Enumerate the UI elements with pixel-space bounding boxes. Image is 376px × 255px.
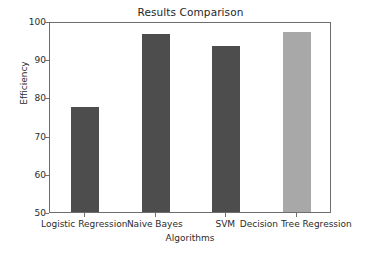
x-tick-label: Naive Bayes (127, 219, 183, 229)
x-axis-label: Algorithms (49, 233, 331, 243)
y-tick-label: 90 (6, 55, 46, 65)
y-tick-mark (45, 60, 49, 61)
x-tick-mark (84, 213, 85, 217)
bar (212, 46, 240, 212)
bar (283, 32, 311, 212)
y-tick-mark (45, 98, 49, 99)
y-tick-mark (45, 213, 49, 214)
y-tick-mark (45, 22, 49, 23)
x-tick-label: Logistic Regression (41, 219, 127, 229)
x-tick-mark (155, 213, 156, 217)
y-tick-label: 60 (6, 170, 46, 180)
y-tick-label: 50 (6, 208, 46, 218)
y-tick-mark (45, 175, 49, 176)
bar (71, 107, 99, 212)
plot-area (49, 22, 331, 213)
y-tick-label: 80 (6, 93, 46, 103)
x-tick-label: SVM (215, 219, 235, 229)
y-tick-label: 100 (6, 17, 46, 27)
x-tick-mark (296, 213, 297, 217)
chart-figure: Results Comparison Efficiency Algorithms… (0, 0, 376, 255)
x-tick-mark (225, 213, 226, 217)
y-tick-mark (45, 137, 49, 138)
bar (142, 34, 170, 212)
x-tick-label: Decision Tree Regression (240, 219, 352, 229)
chart-title: Results Comparison (49, 6, 332, 18)
bars-layer (50, 23, 330, 212)
y-tick-label: 70 (6, 132, 46, 142)
